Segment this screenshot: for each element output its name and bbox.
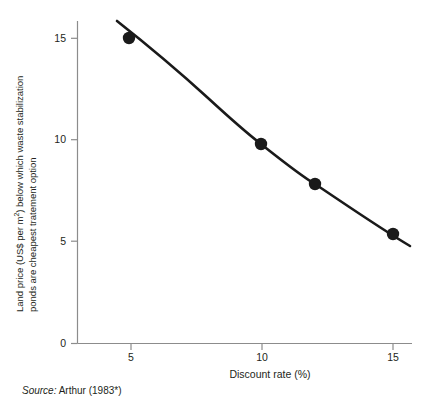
source-note-value: Arthur (1983*): [56, 385, 121, 396]
x-tick-label-10: 10: [242, 352, 282, 363]
plot-area: [0, 0, 432, 410]
data-line-series-0: [117, 21, 410, 246]
chart-figure: Land price (US$ per m2) below which wast…: [0, 0, 432, 410]
data-point-marker: [123, 32, 135, 44]
source-note: Source: Arthur (1983*): [22, 385, 122, 397]
x-tick-label-5: 5: [111, 352, 151, 363]
data-point-marker: [309, 178, 321, 190]
x-axis-title: Discount rate (%): [150, 368, 390, 380]
x-tick-label-15: 15: [373, 352, 413, 363]
source-note-label: Source:: [22, 385, 56, 396]
data-point-marker: [387, 228, 399, 240]
data-point-marker: [255, 138, 267, 150]
